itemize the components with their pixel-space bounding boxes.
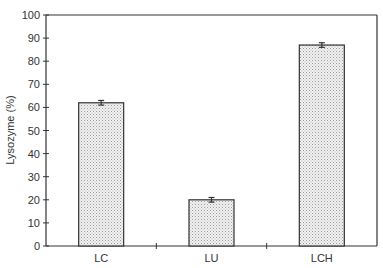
bar-lu <box>189 197 234 246</box>
y-axis-title: Lysozyme (%) <box>4 95 16 164</box>
y-tick-label: 50 <box>28 125 40 137</box>
y-tick-label: 10 <box>28 217 40 229</box>
y-tick-label: 70 <box>28 78 40 90</box>
y-tick-label: 60 <box>28 101 40 113</box>
x-tick-label: LC <box>94 252 108 264</box>
y-tick-label: 100 <box>22 9 40 21</box>
y-tick-label: 30 <box>28 171 40 183</box>
y-tick-label: 0 <box>34 240 40 252</box>
y-tick-label: 80 <box>28 55 40 67</box>
y-tick-label: 90 <box>28 32 40 44</box>
y-tick-label: 20 <box>28 194 40 206</box>
bars <box>79 43 345 246</box>
y-tick-label: 40 <box>28 148 40 160</box>
x-tick-label: LU <box>204 252 218 264</box>
y-axis: 0102030405060708090100 <box>22 9 49 252</box>
bar-lc <box>79 100 124 246</box>
bar-lch <box>299 43 344 246</box>
x-tick-label: LCH <box>311 252 333 264</box>
bar-chart: 0102030405060708090100 LCLULCH Lysozyme … <box>0 0 383 268</box>
